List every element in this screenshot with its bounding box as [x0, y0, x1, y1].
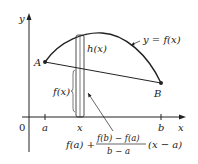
tick-label-a: a [42, 122, 48, 133]
formula-denominator: b − a [107, 146, 130, 156]
point-label-B: B [153, 88, 161, 99]
y-axis-arrow-icon [27, 13, 32, 20]
tick-label-x: x [77, 122, 83, 133]
x-axis-arrow-icon [179, 115, 186, 120]
y-axis-label: y [18, 13, 25, 24]
fx-label: f(x) [52, 86, 70, 97]
curve-label: y = f(x) [142, 34, 181, 45]
x-axis-label: x [178, 122, 184, 133]
formula-leader [88, 93, 113, 131]
fx-brace [71, 70, 75, 112]
curve-leader-arrow-icon [131, 42, 135, 46]
formula-suffix: (x − a) [148, 139, 182, 150]
mean-value-theorem-diagram: y x 0 a x b A B y = f(x) h(x) f(x) f(a) … [0, 0, 198, 164]
h-label: h(x) [87, 43, 107, 54]
point-B [159, 81, 163, 85]
secant-line [45, 62, 161, 83]
formula-numerator: f(b) − f(a) [96, 133, 140, 143]
formula-leader-arrow-icon [88, 93, 92, 98]
point-A [43, 60, 47, 64]
formula-prefix: f(a) + [65, 139, 95, 150]
point-label-A: A [33, 57, 41, 68]
tick-label-b: b [158, 122, 164, 133]
origin-label: 0 [19, 122, 25, 133]
